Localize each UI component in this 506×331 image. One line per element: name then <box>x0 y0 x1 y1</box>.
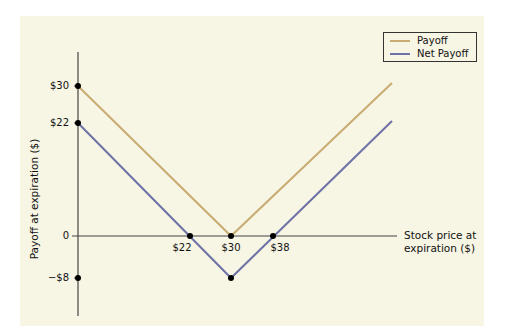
y-tick-22: $22 <box>29 117 69 128</box>
net-payoff-line <box>78 121 392 278</box>
legend: Payoff Net Payoff <box>383 32 477 62</box>
legend-item-payoff: Payoff <box>390 34 448 47</box>
x-tick-30: $30 <box>211 242 251 253</box>
y-tick-minus-8: −$8 <box>29 272 69 283</box>
net-payoff-swatch-icon <box>390 53 410 55</box>
legend-label-net-payoff: Net Payoff <box>417 48 468 59</box>
x-axis-title-line2: expiration ($) <box>404 242 476 255</box>
x-axis-title-line1: Stock price at <box>404 229 476 242</box>
x-axis-title: Stock price at expiration ($) <box>404 229 476 255</box>
payoff-swatch-icon <box>390 40 410 42</box>
y-axis-title: Payoff at expiration ($) <box>28 139 40 260</box>
payoff-line <box>78 83 392 236</box>
y-tick-30: $30 <box>29 80 69 91</box>
x-tick-38: $38 <box>260 242 300 253</box>
legend-item-net-payoff: Net Payoff <box>390 47 468 60</box>
x-tick-22: $22 <box>162 242 202 253</box>
legend-label-payoff: Payoff <box>417 35 448 46</box>
